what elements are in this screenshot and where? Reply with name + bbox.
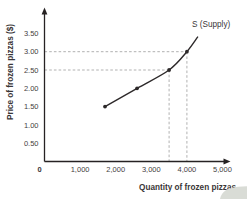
y-axis-arrowhead [42, 8, 48, 15]
x-tick-label: 0 [37, 165, 41, 174]
x-tick-label: 5,000 [213, 165, 232, 174]
supply-curve-label: S (Supply) [192, 20, 230, 29]
y-tick-label: 2.00 [24, 84, 39, 93]
y-tick-label: 0.50 [24, 139, 39, 148]
y-tick-label: 2.50 [24, 66, 39, 75]
supply-curve [105, 37, 198, 107]
y-tick-label: 3.00 [24, 47, 39, 56]
x-tick-label: 4,000 [178, 165, 197, 174]
y-axis-title: Price of frozen pizzas ($) [6, 24, 15, 120]
y-tick-label: 1.50 [24, 102, 39, 111]
y-tick-label: 3.50 [24, 29, 39, 38]
y-tick-label: 1.00 [24, 121, 39, 130]
x-tick-label: 2,000 [106, 165, 125, 174]
data-point-marker [185, 50, 189, 54]
x-axis-arrowhead [224, 159, 231, 165]
data-point-marker [135, 86, 139, 90]
x-tick-label: 3,000 [142, 165, 161, 174]
data-point-marker [167, 68, 171, 72]
x-tick-label: 1,000 [71, 165, 90, 174]
chart-plot: 0.501.001.502.002.503.003.5001,0002,0003… [24, 8, 232, 175]
supply-chart: 0.501.001.502.002.503.003.5001,0002,0003… [0, 0, 247, 199]
x-axis-title: Quantity of frozen pizzas [139, 183, 236, 192]
data-point-marker [103, 105, 107, 109]
supply-chart-figure: 0.501.001.502.002.503.003.5001,0002,0003… [0, 0, 247, 199]
